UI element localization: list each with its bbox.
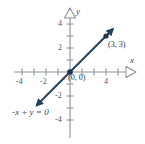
y-tick-label-pos2: 2 bbox=[58, 44, 62, 52]
x-axis-arrowhead-icon bbox=[126, 67, 136, 78]
graph-canvas bbox=[0, 0, 145, 144]
y-axis-label: y bbox=[76, 7, 80, 16]
y-tick-label-neg2: -2 bbox=[55, 92, 62, 100]
y-tick-label-neg4: -4 bbox=[55, 116, 62, 124]
point-label-3-3: (3, 3) bbox=[108, 41, 125, 49]
coordinate-plane-figure: x y -4 -2 4 4 2 -2 -4 (3, 3) (0, 0) -x +… bbox=[0, 0, 145, 144]
x-tick-label-pos4: 4 bbox=[104, 78, 108, 86]
origin-label-0-0: (0, 0) bbox=[68, 74, 85, 82]
x-axis-label: x bbox=[130, 56, 134, 65]
x-tick-label-neg2: -2 bbox=[40, 78, 47, 86]
y-tick-label-pos4: 4 bbox=[58, 20, 62, 28]
plotted-line bbox=[37, 29, 114, 106]
x-tick-label-neg4: -4 bbox=[16, 78, 23, 86]
equation-label: -x + y = 0 bbox=[12, 108, 49, 117]
data-point-3-3 bbox=[103, 33, 108, 38]
y-axis-arrowhead-icon bbox=[65, 8, 76, 18]
